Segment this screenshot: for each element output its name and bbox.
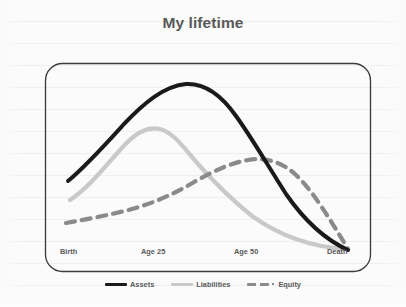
chart-legend: Assets Liabilities Equity [0, 280, 406, 289]
x-tick-label-death: Death [327, 247, 348, 256]
legend-equity-marker-icon [272, 283, 274, 285]
legend-item-liabilities[interactable]: Liabilities [171, 280, 230, 289]
legend-label-liabilities: Liabilities [196, 280, 230, 289]
series-line-liabilities [70, 128, 346, 249]
legend-item-assets[interactable]: Assets [105, 280, 154, 289]
legend-label-equity: Equity [278, 280, 301, 289]
x-tick-label-age-50: Age 50 [234, 247, 258, 256]
legend-swatch-assets-icon [105, 283, 127, 286]
series-line-assets [68, 84, 348, 250]
chart-frame [46, 64, 371, 272]
slide-canvas: My lifetime Birth Age 25 Age 50 Death As… [0, 0, 406, 307]
line-chart-plot [0, 0, 406, 307]
x-tick-label-birth: Birth [60, 247, 77, 256]
x-tick-label-age-25: Age 25 [141, 247, 165, 256]
legend-swatch-equity-icon [247, 283, 269, 286]
legend-label-assets: Assets [130, 280, 154, 289]
legend-swatch-liabilities-icon [171, 283, 193, 286]
legend-item-equity[interactable]: Equity [247, 280, 301, 289]
